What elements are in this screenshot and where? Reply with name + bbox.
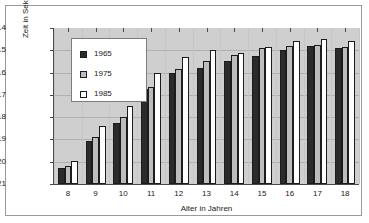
- x-axis-tick-label: 8: [54, 189, 82, 198]
- x-axis-tick-mark: [68, 28, 69, 32]
- bar-1965-age-10: [113, 123, 120, 184]
- bar-group: [224, 28, 244, 184]
- figure-frame: 1415161718192021 89101112131415161718 Ze…: [5, 5, 362, 216]
- plot-area: 1415161718192021 89101112131415161718 Ze…: [53, 28, 359, 185]
- bar-1975-age-16: [286, 46, 293, 184]
- legend-swatch-1985: [80, 91, 87, 98]
- y-axis-tick-label: 15: [0, 46, 6, 54]
- bar-1985-age-13: [210, 50, 217, 184]
- bar-1975-age-13: [203, 61, 210, 184]
- bar-1965-age-16: [280, 50, 287, 184]
- bar-1985-age-14: [238, 53, 245, 184]
- bar-1975-age-8: [65, 166, 72, 184]
- x-axis-tick-mark: [317, 28, 318, 32]
- bar-1975-age-11: [148, 87, 155, 184]
- x-axis-tick-mark: [234, 28, 235, 32]
- category-separator: [359, 28, 360, 184]
- bar-1985-age-12: [182, 57, 189, 184]
- category-separator: [54, 28, 55, 184]
- y-axis-tick-mark: [50, 162, 54, 163]
- legend-label: 1975: [94, 70, 112, 78]
- chart-figure: 1415161718192021 89101112131415161718 Ze…: [0, 0, 369, 223]
- x-axis-tick-label: 15: [248, 189, 276, 198]
- x-axis-tick-mark: [96, 28, 97, 32]
- bar-1965-age-11: [141, 89, 148, 184]
- y-axis-tick-label: 14: [0, 24, 6, 32]
- bar-1965-age-18: [335, 48, 342, 184]
- chart-legend: 196519751985: [71, 38, 147, 102]
- x-axis-tick-label: 12: [165, 189, 193, 198]
- y-axis-title: Zeit in Sekunden: [21, 0, 30, 68]
- bar-1965-age-15: [252, 56, 259, 184]
- y-axis-tick-mark: [50, 139, 54, 140]
- bar-1965-age-17: [307, 46, 314, 184]
- y-axis-tick-mark: [50, 95, 54, 96]
- category-separator: [331, 28, 332, 184]
- bar-group: [252, 28, 272, 184]
- bar-1965-age-8: [58, 168, 65, 184]
- bar-group: [197, 28, 217, 184]
- bar-group: [169, 28, 189, 184]
- bar-1975-age-14: [231, 55, 238, 184]
- x-axis-tick-label: 13: [193, 189, 221, 198]
- category-separator: [276, 28, 277, 184]
- bar-group: [307, 28, 327, 184]
- y-axis-tick-label: 18: [0, 113, 6, 121]
- bar-1975-age-18: [342, 47, 349, 184]
- x-axis-tick-label: 16: [276, 189, 304, 198]
- bar-1965-age-13: [197, 68, 204, 184]
- bar-1985-age-15: [265, 47, 272, 184]
- bar-1985-age-9: [99, 126, 106, 184]
- bar-1975-age-12: [175, 69, 182, 184]
- y-axis-tick-mark: [50, 184, 54, 185]
- bar-1985-age-8: [71, 161, 78, 184]
- category-separator: [220, 28, 221, 184]
- y-axis-tick-label: 16: [0, 69, 6, 77]
- bar-group: [280, 28, 300, 184]
- x-axis-tick-label: 18: [331, 189, 359, 198]
- y-axis-tick-mark: [50, 117, 54, 118]
- category-separator: [248, 28, 249, 184]
- category-separator: [165, 28, 166, 184]
- x-axis-tick-label: 14: [220, 189, 248, 198]
- x-axis-tick-label: 10: [109, 189, 137, 198]
- legend-item-1965: 1965: [80, 48, 112, 60]
- bar-1965-age-12: [169, 73, 176, 184]
- y-axis-tick-label: 19: [0, 135, 6, 143]
- bar-1985-age-16: [293, 41, 300, 184]
- x-axis-tick-mark: [290, 28, 291, 32]
- bar-group: [335, 28, 355, 184]
- x-axis-tick-label: 17: [304, 189, 332, 198]
- x-axis-title: Alter in Jahren: [54, 204, 359, 213]
- x-axis-tick-mark: [207, 28, 208, 32]
- bar-1985-age-17: [321, 39, 328, 184]
- legend-item-1975: 1975: [80, 68, 112, 80]
- bar-1975-age-9: [92, 137, 99, 184]
- x-axis-tick-label: 9: [82, 189, 110, 198]
- y-axis-tick-label: 21: [0, 180, 6, 188]
- x-axis-tick-mark: [151, 28, 152, 32]
- x-axis-tick-mark: [345, 28, 346, 32]
- y-axis-tick-label: 17: [0, 91, 6, 99]
- bar-1975-age-17: [314, 45, 321, 184]
- legend-label: 1985: [94, 90, 112, 98]
- legend-swatch-1965: [80, 51, 87, 58]
- bar-1985-age-11: [154, 73, 161, 184]
- y-axis-tick-label: 20: [0, 158, 6, 166]
- category-separator: [304, 28, 305, 184]
- bar-1985-age-18: [348, 41, 355, 184]
- y-axis-tick-mark: [50, 28, 54, 29]
- category-separator: [193, 28, 194, 184]
- x-axis-tick-label: 11: [137, 189, 165, 198]
- bar-1975-age-15: [259, 48, 266, 184]
- x-axis-tick-mark: [262, 28, 263, 32]
- legend-label: 1965: [94, 50, 112, 58]
- y-axis-tick-mark: [50, 50, 54, 51]
- legend-item-1985: 1985: [80, 88, 112, 100]
- y-axis-tick-mark: [50, 73, 54, 74]
- bar-1965-age-9: [86, 141, 93, 184]
- bar-1975-age-10: [120, 117, 127, 184]
- bar-1965-age-14: [224, 61, 231, 184]
- bar-1985-age-10: [127, 106, 134, 184]
- legend-swatch-1975: [80, 71, 87, 78]
